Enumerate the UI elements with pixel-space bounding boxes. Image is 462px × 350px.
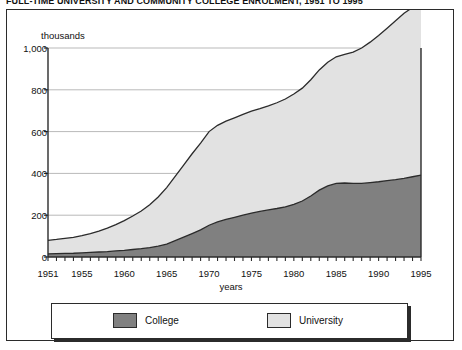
y-tick-label: 400 (31, 168, 47, 179)
chart-legend: College University (51, 303, 408, 339)
y-tick-label: 200 (31, 210, 47, 221)
x-tick-label: 1985 (326, 268, 347, 279)
y-axis-tick-labels: 02004006008001,000 (7, 10, 53, 270)
legend-label-university: University (299, 316, 343, 326)
legend-item-university: University (267, 313, 343, 328)
legend-swatch-university (267, 313, 291, 328)
figure-frame: thousands 02004006008001,000 years 19511… (6, 9, 454, 341)
y-tick-label: 1,000 (23, 43, 47, 54)
x-tick-label: 1990 (368, 268, 389, 279)
x-tick-label: 1975 (241, 268, 262, 279)
y-tick-label: 600 (31, 126, 47, 137)
legend-item-college: College (113, 313, 179, 328)
chart-title: FULL-TIME UNIVERSITY AND COMMUNITY COLLE… (6, 0, 458, 7)
legend-label-college: College (145, 316, 179, 326)
y-tick-label: 800 (31, 84, 47, 95)
x-tick-label: 1965 (156, 268, 177, 279)
x-tick-label: 1960 (114, 268, 135, 279)
x-tick-label: 1995 (410, 268, 431, 279)
chart-screenshot: FULL-TIME UNIVERSITY AND COMMUNITY COLLE… (0, 0, 462, 350)
y-tick-label: 0 (42, 252, 47, 263)
legend-swatch-college (113, 313, 137, 328)
x-axis-tick-labels: 1951195519601965197019751980198519901995 (7, 268, 455, 298)
plot-area: thousands 02004006008001,000 years (7, 10, 455, 270)
x-tick-label: 1970 (198, 268, 219, 279)
area-chart-svg (7, 10, 455, 270)
x-tick-label: 1955 (71, 268, 92, 279)
x-tick-label: 1951 (37, 268, 58, 279)
x-tick-label: 1980 (283, 268, 304, 279)
